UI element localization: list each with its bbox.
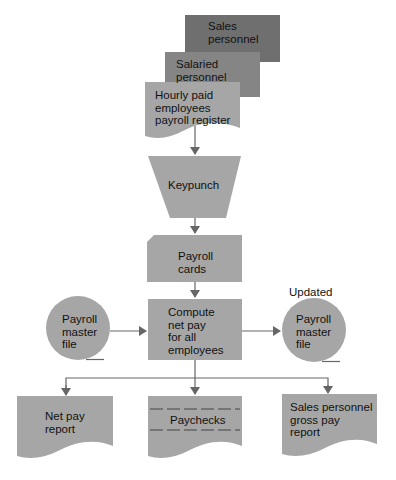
- sales-personnel-label: Sales personnel: [208, 20, 259, 45]
- keypunch-label: Keypunch: [168, 179, 219, 192]
- paychecks-shape: [148, 396, 242, 458]
- label-line: Salaried: [176, 58, 227, 71]
- net-pay-report-label: Net pay report: [45, 410, 85, 435]
- label-line: Payroll: [296, 313, 331, 326]
- payroll-cards-label: Payroll cards: [178, 250, 213, 275]
- label-line: Payroll: [178, 250, 213, 263]
- label-line: Compute: [168, 306, 224, 319]
- sales-gross-report-label: Sales personnel gross pay report: [290, 401, 372, 439]
- label-line: file: [62, 338, 97, 351]
- hourly-register-label: Hourly paid employees payroll register: [155, 89, 230, 127]
- label-line: cards: [178, 263, 213, 276]
- label-line: payroll register: [155, 114, 230, 127]
- label-line: for all: [168, 331, 224, 344]
- salaried-personnel-label: Salaried personnel: [176, 58, 227, 83]
- master-file-out-label: Payroll master file: [296, 313, 331, 351]
- label-line: Net pay: [45, 410, 85, 423]
- branch-line: [66, 378, 328, 394]
- label-line: report: [45, 423, 85, 436]
- compute-label: Compute net pay for all employees: [168, 306, 224, 356]
- label-line: Sales personnel: [290, 401, 372, 414]
- label-line: Payroll: [62, 313, 97, 326]
- master-file-in-label: Payroll master file: [62, 313, 97, 351]
- label-line: net pay: [168, 319, 224, 332]
- label-line: employees: [168, 344, 224, 357]
- label-line: Sales: [208, 20, 259, 33]
- label-line: file: [296, 338, 331, 351]
- label-line: master: [296, 326, 331, 339]
- label-line: report: [290, 426, 372, 439]
- updated-caption: Updated: [289, 286, 332, 299]
- label-line: employees: [155, 102, 230, 115]
- label-line: gross pay: [290, 414, 372, 427]
- label-line: master: [62, 326, 97, 339]
- label-line: Hourly paid: [155, 89, 230, 102]
- label-line: personnel: [208, 33, 259, 46]
- label-line: personnel: [176, 71, 227, 84]
- paychecks-label: Paychecks: [170, 414, 226, 427]
